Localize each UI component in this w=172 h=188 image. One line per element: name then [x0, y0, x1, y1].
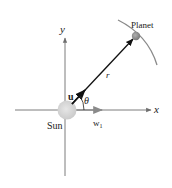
r-label: r	[106, 70, 110, 80]
planet-label: Planet	[131, 20, 154, 30]
w1-label: w1	[93, 118, 103, 129]
y-axis-label: y	[59, 23, 65, 35]
sun-planet-diagram: y x w1 Sun u r θ Planet	[0, 0, 172, 188]
sun-label: Sun	[47, 120, 63, 131]
theta-label: θ	[84, 95, 89, 106]
u-label: u	[68, 91, 74, 102]
planet-icon	[132, 32, 140, 40]
x-axis-label: x	[153, 103, 159, 115]
